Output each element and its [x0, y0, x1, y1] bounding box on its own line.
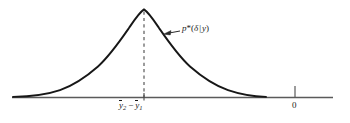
mean-difference-label: y2−y1	[119, 101, 143, 110]
minus-sign: −	[126, 100, 135, 110]
ybar-2-subscript: 2	[123, 104, 126, 111]
density-figure: p*(δ|y) y2−y1 0	[0, 0, 350, 123]
density-label-close-paren: )	[206, 23, 209, 33]
posterior-density-curve	[13, 9, 266, 97]
density-plot-svg	[0, 0, 350, 123]
density-label-arrowhead	[164, 31, 172, 35]
density-function-label: p*(δ|y)	[182, 24, 209, 33]
ybar-1-subscript: 1	[139, 104, 142, 111]
zero-tick-label: 0	[292, 101, 297, 110]
